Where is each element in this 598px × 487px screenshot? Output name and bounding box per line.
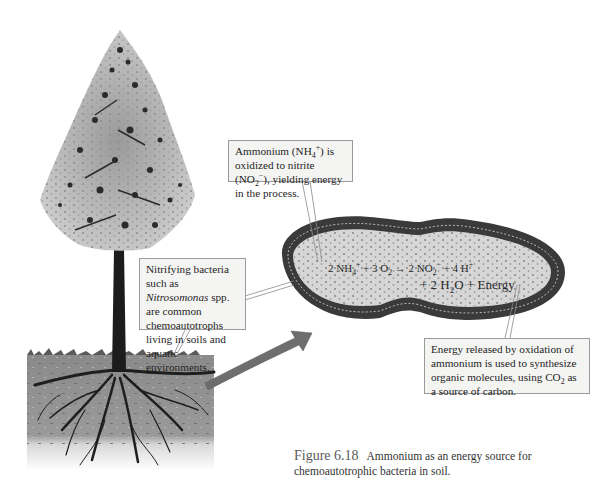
callout-energy-use: Energy released by oxidation of ammonium… [424, 338, 590, 394]
genus-name: Nitrosomonas [146, 291, 208, 303]
eq-term: + 2 H [420, 277, 450, 292]
reaction-arrow-icon: → [392, 262, 409, 274]
equation-line-1: 2 NH4+ + 3 O2 → 2 NO2− + 4 H+ [328, 262, 473, 274]
illustration [0, 0, 598, 487]
callout-text: Energy released by oxidation of ammonium… [431, 343, 576, 383]
eq-term: + 4 H [441, 262, 469, 274]
callout-nitrifying-bacteria: Nitrifying bacteria such as Nitrosomonas… [139, 258, 246, 330]
eq-term: 2 NO [409, 262, 433, 274]
superscript: + [469, 260, 473, 269]
subscript: 2 [433, 268, 437, 277]
callout-text: Ammonium (NH [235, 145, 312, 157]
subscript: 4 [352, 268, 356, 277]
tree-foliage-icon [40, 30, 195, 251]
callout-text: Nitrifying bacteria such as [146, 263, 229, 289]
eq-term: + 3 O [360, 262, 388, 274]
eq-term: O + Energy [454, 277, 515, 292]
callout-ammonium-oxidation: Ammonium (NH4+) is oxidized to nitrite (… [228, 140, 353, 182]
diagram-stage: Ammonium (NH4+) is oxidized to nitrite (… [0, 0, 598, 487]
eq-term: 2 NH [328, 262, 352, 274]
figure-number: Figure 6.18 [294, 448, 359, 463]
equation-line-2: + 2 H2O + Energy [420, 277, 515, 293]
figure-caption: Figure 6.18Ammonium as an energy source … [294, 448, 594, 479]
